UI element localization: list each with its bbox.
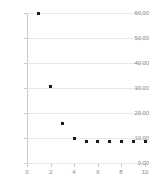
data-point [61, 122, 64, 125]
x-tick-mark [145, 164, 146, 167]
x-tick-label: 10 [137, 169, 149, 175]
data-point [73, 137, 76, 140]
data-point [108, 140, 111, 143]
x-tick-label: 4 [66, 169, 82, 175]
x-tick-mark [51, 164, 52, 167]
scatter-chart: 60,0050,0040,0030,0020,0010,000,00 02468… [0, 0, 149, 181]
x-tick-mark [74, 164, 75, 167]
data-point [49, 85, 52, 88]
data-point [96, 140, 99, 143]
x-tick-label: 6 [90, 169, 106, 175]
x-tick-mark [98, 164, 99, 167]
x-tick-label: 8 [113, 169, 129, 175]
data-point [144, 140, 147, 143]
x-tick-label: 0 [19, 169, 35, 175]
x-tick-mark [121, 164, 122, 167]
data-point [120, 140, 123, 143]
plot-area [27, 13, 145, 163]
data-point [85, 140, 88, 143]
data-point [37, 12, 40, 15]
x-tick-label: 2 [43, 169, 59, 175]
data-point [132, 140, 135, 143]
x-tick-mark [27, 164, 28, 167]
